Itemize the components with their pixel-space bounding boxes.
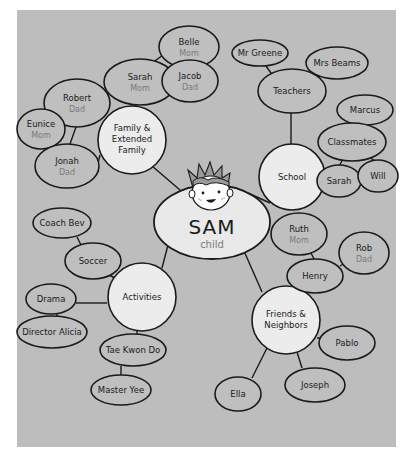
node-name: Ruth	[289, 224, 309, 234]
node-teachers[interactable]: Teachers	[258, 69, 326, 113]
edge-friends-joseph	[297, 352, 302, 368]
node-role: Mom	[130, 84, 150, 93]
node-name: Mr Greene	[238, 48, 283, 58]
node-role: Mom	[179, 49, 199, 58]
hub-activities-label: Activities	[123, 292, 162, 302]
hub-school-label: School	[278, 172, 306, 182]
node-name: Marcus	[350, 105, 381, 115]
node-name: Henry	[302, 271, 328, 281]
node-role: Dad	[356, 255, 372, 264]
node-coach-bev[interactable]: Coach Bev	[33, 208, 91, 238]
node-name: Jonah	[54, 156, 79, 166]
node-name: Eunice	[27, 119, 55, 129]
node-name: Classmates	[328, 137, 377, 147]
root-name: SAM	[188, 215, 235, 239]
edge-root-friends	[244, 251, 262, 292]
node-name: Soccer	[79, 256, 108, 266]
node-name: Master Yee	[98, 385, 144, 395]
node-name: Tae Kwon Do	[105, 345, 161, 355]
hub-activities[interactable]: Activities	[108, 263, 176, 331]
boy-face-icon	[188, 162, 233, 210]
edge-root-family	[152, 166, 180, 190]
node-classmates[interactable]: Classmates	[318, 123, 386, 161]
node-name: Drama	[37, 294, 66, 304]
edge-robert-jonah	[70, 127, 76, 144]
edge-soccer-coachbev	[77, 237, 81, 245]
node-marcus[interactable]: Marcus	[337, 95, 393, 125]
node-ruth[interactable]: Ruth Mom	[271, 213, 327, 255]
hub-friends[interactable]: Friends & Neighbors	[252, 286, 320, 354]
node-name: Sarah	[327, 176, 352, 186]
node-tae-kwon-do[interactable]: Tae Kwon Do	[100, 334, 166, 366]
node-ella[interactable]: Ella	[215, 377, 261, 411]
node-soccer[interactable]: Soccer	[65, 243, 121, 279]
node-master-yee[interactable]: Master Yee	[91, 375, 151, 405]
edge-root-activities	[162, 245, 168, 268]
node-jonah[interactable]: Jonah Dad	[35, 144, 99, 188]
node-name: Ella	[230, 389, 245, 399]
node-director-alicia[interactable]: Director Alicia	[17, 316, 87, 348]
node-mrs-beams[interactable]: Mrs Beams	[306, 47, 368, 79]
node-role: Dad	[59, 168, 75, 177]
node-name: Teachers	[272, 86, 311, 96]
node-name: Coach Bev	[39, 218, 84, 228]
node-name: Director Alicia	[22, 327, 82, 337]
node-joseph[interactable]: Joseph	[285, 368, 345, 402]
node-henry[interactable]: Henry	[287, 259, 343, 293]
node-name: Jacob	[178, 71, 202, 81]
node-jacob[interactable]: Jacob Dad	[162, 60, 218, 102]
node-name: Will	[370, 171, 385, 181]
node-name: Joseph	[300, 380, 329, 390]
node-name: Mrs Beams	[314, 58, 362, 68]
node-will[interactable]: Will	[358, 160, 398, 192]
hub-family[interactable]: Family & Extended Family	[98, 106, 166, 174]
node-role: Mom	[289, 236, 309, 245]
node-name: Rob	[356, 243, 372, 253]
edge-henry-ruth	[311, 253, 314, 259]
node-sarah-classmate[interactable]: Sarah	[317, 165, 361, 197]
node-rob[interactable]: Rob Dad	[339, 232, 389, 274]
edge-friends-ella	[252, 348, 267, 378]
node-name: Belle	[178, 37, 199, 47]
node-eunice[interactable]: Eunice Mom	[17, 109, 65, 149]
node-drama[interactable]: Drama	[26, 284, 76, 314]
hub-family-label-2: Extended	[112, 134, 152, 144]
hub-family-label-1: Family &	[114, 123, 151, 133]
node-role: Dad	[182, 83, 198, 92]
hub-friends-label-2: Neighbors	[264, 320, 308, 330]
node-role: Dad	[69, 105, 85, 114]
hub-school[interactable]: School	[259, 144, 325, 210]
node-role: Mom	[31, 131, 51, 140]
root-role: child	[200, 239, 224, 250]
root-node-sam[interactable]: SAM child	[154, 162, 270, 259]
node-mr-greene[interactable]: Mr Greene	[232, 40, 288, 66]
node-pablo[interactable]: Pablo	[319, 326, 375, 360]
hub-family-label-3: Family	[118, 145, 145, 155]
hub-friends-label-1: Friends &	[266, 309, 306, 319]
node-name: Robert	[63, 93, 92, 103]
node-name: Sarah	[128, 72, 153, 82]
node-name: Pablo	[336, 338, 359, 348]
mind-map: SAM child Family & Extended Family Sarah…	[0, 0, 408, 462]
